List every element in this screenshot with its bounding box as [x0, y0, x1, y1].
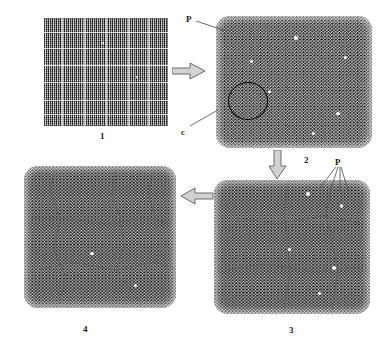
- pore: [134, 284, 137, 287]
- pore: [318, 292, 321, 295]
- panel-3-grain-boundaries: [214, 180, 370, 314]
- panel-1-lattice: [44, 18, 168, 126]
- panel-3-caption: 3: [289, 325, 294, 335]
- pore: [306, 192, 310, 196]
- arrow-1-to-2: [172, 62, 206, 80]
- pore: [332, 266, 336, 270]
- pore: [90, 252, 94, 255]
- panel-4-grain-boundaries: [24, 166, 176, 308]
- label-pore-panel3: P: [335, 157, 341, 167]
- pore: [294, 36, 298, 40]
- pore: [250, 60, 253, 63]
- lattice-vacancy: [102, 42, 104, 44]
- pore: [340, 204, 343, 208]
- figure-canvas: 1 2: [0, 0, 390, 349]
- arrow-2-to-3: [269, 150, 287, 180]
- pore: [336, 112, 340, 115]
- label-pore-panel2: P: [186, 14, 192, 24]
- pore: [288, 248, 291, 251]
- pore: [344, 56, 347, 59]
- pore: [268, 90, 271, 93]
- panel-4-coarsened: [24, 166, 176, 308]
- panel-3-growth: [214, 180, 370, 314]
- lattice-vacancy: [136, 76, 138, 78]
- panel-1-caption: 1: [100, 131, 105, 141]
- nucleus-highlight-circle: [228, 82, 268, 120]
- panel-2-caption: 2: [304, 155, 309, 165]
- pore: [312, 132, 315, 135]
- arrow-3-to-4: [180, 187, 214, 205]
- panel-2-nucleation: [216, 16, 372, 148]
- label-nucleus-panel2: c: [181, 127, 185, 137]
- panel-4-caption: 4: [83, 324, 88, 334]
